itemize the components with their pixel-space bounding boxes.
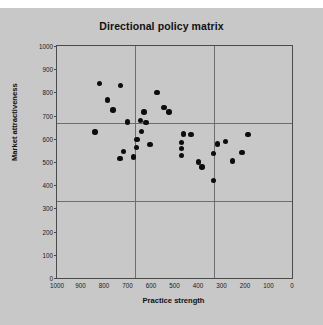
scatter-point (179, 146, 184, 151)
y-tick-label: 500 (42, 159, 53, 166)
scatter-point (110, 107, 115, 112)
y-tick-mark (54, 232, 57, 233)
gridline-horizontal (57, 201, 292, 202)
x-tick-label: 700 (122, 282, 133, 289)
scatter-point (211, 178, 216, 183)
y-tick-label: 400 (42, 182, 53, 189)
scatter-point (131, 154, 136, 159)
scatter-point (181, 131, 186, 136)
scatter-point (92, 129, 97, 134)
scatter-point (179, 140, 184, 145)
x-tick-label: 900 (75, 282, 86, 289)
y-tick-mark (54, 116, 57, 117)
y-tick-mark (54, 278, 57, 279)
scatter-point (97, 81, 102, 86)
gridline-vertical (214, 46, 215, 278)
scatter-point (147, 142, 152, 147)
y-tick-mark (54, 208, 57, 209)
scatter-point (223, 139, 228, 144)
x-tick-label: 0 (290, 282, 294, 289)
y-tick-label: 200 (42, 228, 53, 235)
scatter-point (121, 149, 126, 154)
scatter-point (117, 156, 122, 161)
scatter-point (134, 145, 139, 150)
y-tick-label: 0 (49, 275, 53, 282)
y-tick-label: 900 (42, 66, 53, 73)
scatter-point (211, 151, 216, 156)
scatter-point (215, 141, 220, 146)
scatter-point (179, 153, 184, 158)
scatter-point (134, 137, 139, 142)
gridline-horizontal (57, 123, 292, 124)
y-tick-mark (54, 139, 57, 140)
x-tick-label: 600 (146, 282, 157, 289)
x-axis-label: Practice strength (56, 296, 291, 305)
chart-figure: Directional policy matrix Market attract… (0, 8, 323, 325)
x-tick-label: 1000 (50, 282, 64, 289)
x-tick-label: 800 (99, 282, 110, 289)
y-tick-label: 100 (42, 251, 53, 258)
scatter-point (139, 129, 144, 134)
x-tick-label: 300 (216, 282, 227, 289)
y-tick-label: 300 (42, 205, 53, 212)
chart-title: Directional policy matrix (0, 20, 323, 32)
y-axis-label: Market attractiveness (10, 83, 19, 161)
y-tick-mark (54, 162, 57, 163)
scatter-point (199, 164, 204, 169)
y-tick-mark (54, 185, 57, 186)
y-tick-label: 600 (42, 135, 53, 142)
x-tick-label: 200 (240, 282, 251, 289)
gridline-vertical (135, 46, 136, 278)
scatter-point (141, 109, 146, 114)
x-tick-label: 400 (193, 282, 204, 289)
scatter-point (125, 119, 130, 124)
scatter-point (166, 109, 171, 114)
y-tick-mark (54, 69, 57, 70)
scatter-point (245, 132, 250, 137)
scatter-point (118, 83, 123, 88)
scatter-point (239, 150, 244, 155)
scatter-point (143, 120, 148, 125)
y-tick-mark (54, 255, 57, 256)
y-tick-label: 700 (42, 112, 53, 119)
x-tick-label: 100 (263, 282, 274, 289)
y-tick-mark (54, 92, 57, 93)
scatter-point (188, 132, 193, 137)
scatter-point (154, 90, 159, 95)
plot-area: 01002003004005006007008009001000 1000900… (56, 45, 293, 279)
y-tick-label: 800 (42, 89, 53, 96)
x-tick-label: 500 (169, 282, 180, 289)
scatter-point (105, 97, 110, 102)
y-tick-label: 1000 (39, 43, 53, 50)
y-tick-mark (54, 46, 57, 47)
scatter-point (230, 158, 235, 163)
